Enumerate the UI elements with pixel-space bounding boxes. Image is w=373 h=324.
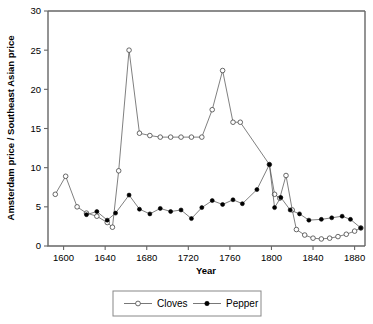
y-tick-label: 15 — [30, 123, 41, 134]
data-point-marker — [75, 205, 80, 210]
x-tick-label: 1760 — [219, 252, 240, 263]
data-point-marker — [302, 233, 307, 238]
x-tick-label: 1800 — [261, 252, 282, 263]
y-tick-label: 20 — [30, 84, 41, 95]
data-point-marker — [127, 193, 131, 197]
x-tick-label: 1680 — [136, 252, 157, 263]
data-point-marker — [273, 206, 277, 210]
data-point-marker — [307, 218, 311, 222]
data-point-marker — [255, 188, 259, 192]
data-point-marker — [84, 213, 88, 217]
data-point-marker — [288, 208, 292, 212]
data-point-marker — [352, 229, 357, 234]
data-point-marker — [240, 202, 244, 206]
data-point-marker — [116, 169, 121, 174]
data-point-marker — [63, 174, 68, 179]
data-point-marker — [158, 206, 162, 210]
data-point-marker — [169, 210, 173, 214]
data-point-marker — [179, 135, 184, 140]
data-point-marker — [238, 120, 243, 125]
x-tick-label: 1600 — [53, 252, 74, 263]
data-point-marker — [110, 225, 115, 230]
data-point-marker — [311, 236, 316, 241]
data-point-marker — [327, 236, 332, 241]
data-point-marker — [137, 131, 142, 136]
data-point-marker — [105, 218, 109, 222]
data-point-marker — [284, 173, 289, 178]
y-axis-title-text: Amsterdam price / Southeast Asian price — [5, 36, 16, 221]
x-tick-label: 1880 — [344, 252, 365, 263]
data-point-marker — [231, 198, 235, 202]
data-point-marker — [95, 210, 99, 214]
chart-background — [0, 0, 373, 324]
open-circle-icon — [136, 301, 141, 306]
data-point-marker — [348, 217, 352, 221]
data-point-marker — [298, 212, 302, 216]
legend-label-cloves: Cloves — [157, 298, 188, 309]
data-point-marker — [220, 68, 225, 73]
y-tick-label: 0 — [36, 240, 41, 251]
data-point-marker — [127, 48, 132, 53]
chart-figure: Amsterdam price / Southeast Asian price … — [0, 0, 373, 324]
y-tick-label: 10 — [30, 162, 41, 173]
data-point-marker — [210, 199, 214, 203]
data-point-marker — [330, 216, 334, 220]
data-point-marker — [319, 237, 324, 242]
data-point-marker — [340, 214, 344, 218]
data-point-marker — [179, 208, 183, 212]
data-point-marker — [279, 195, 283, 199]
data-point-marker — [53, 192, 58, 197]
data-point-marker — [189, 217, 193, 221]
data-point-marker — [168, 135, 173, 140]
data-point-marker — [231, 120, 236, 125]
y-tick-label: 25 — [30, 45, 41, 56]
data-point-marker — [189, 135, 194, 140]
data-point-marker — [158, 135, 163, 140]
data-point-marker — [319, 217, 323, 221]
x-axis-title-text: Year — [196, 265, 216, 276]
data-point-marker — [95, 214, 100, 219]
x-tick-label: 1840 — [302, 252, 323, 263]
data-point-marker — [359, 226, 363, 230]
data-point-marker — [344, 232, 349, 237]
data-point-marker — [210, 107, 215, 112]
chart-legend: Cloves Pepper — [113, 291, 261, 316]
filled-circle-icon — [205, 301, 209, 305]
y-tick-label: 30 — [30, 5, 41, 16]
data-point-marker — [200, 206, 204, 210]
legend-label-pepper: Pepper — [226, 298, 259, 309]
x-tick-label: 1640 — [95, 252, 116, 263]
data-point-marker — [148, 212, 152, 216]
data-point-marker — [294, 227, 299, 232]
data-point-marker — [148, 133, 153, 138]
data-point-marker — [336, 234, 341, 239]
x-tick-label: 1720 — [178, 252, 199, 263]
data-point-marker — [221, 202, 225, 206]
data-point-marker — [114, 211, 118, 215]
data-point-marker — [200, 135, 205, 140]
data-point-marker — [137, 207, 141, 211]
y-axis-title: Amsterdam price / Southeast Asian price — [5, 36, 16, 221]
y-tick-label: 5 — [36, 201, 41, 212]
data-point-marker — [267, 163, 271, 167]
price-ratio-line-chart: Amsterdam price / Southeast Asian price … — [0, 0, 373, 324]
